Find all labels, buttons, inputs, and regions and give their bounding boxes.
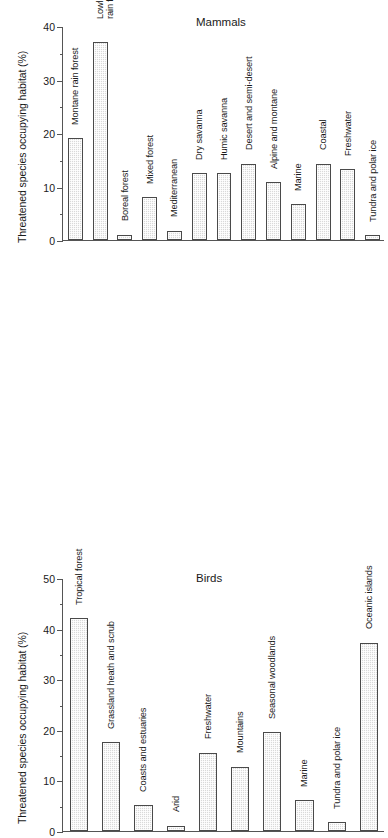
bar (134, 805, 152, 831)
bar-slot: Coastal (316, 27, 331, 240)
y-tick-label: 50 (43, 573, 55, 585)
bar-category-label: Oceanic islands (365, 566, 375, 629)
y-tick-label: 20 (43, 128, 55, 140)
y-tick-label: 40 (43, 21, 55, 33)
bar-slot: Alpine and montane (266, 27, 281, 240)
bar-slot: Lowland rain forest (93, 27, 108, 240)
bar-slot: Marine (291, 27, 306, 240)
bar-category-label: Seasonal woodlands (268, 636, 278, 719)
y-tick-major (57, 241, 63, 242)
bar-category-label: Mediterranean (170, 159, 180, 217)
chart-panel-mammals: Threatened species occupying habitat (%)… (0, 0, 388, 268)
bar (199, 753, 217, 831)
bar (291, 204, 306, 240)
bar-category-label: Mixed forest (146, 135, 156, 184)
bar-category-label: Humic savanna (220, 97, 230, 159)
bar-category-label: Dry savanna (195, 109, 205, 160)
bar-slot: Mountains (231, 579, 249, 831)
bar (360, 643, 378, 831)
bar (217, 173, 232, 240)
bar-category-label: Lowland rain forest (96, 0, 115, 19)
y-axis-title-birds: Threatened species occupying habitat (%) (16, 632, 28, 824)
y-tick-label: 30 (43, 75, 55, 87)
y-tick-label: 30 (43, 674, 55, 686)
bar (340, 169, 355, 240)
bar-slot: Coasts and estuaries (134, 579, 152, 831)
y-tick-label: 20 (43, 725, 55, 737)
y-tick-label: 10 (43, 775, 55, 787)
bar-category-label: Mountains (236, 712, 246, 754)
bar-slot: Mediterranean (167, 27, 182, 240)
bar-slot: Boreal forest (117, 27, 132, 240)
bar (241, 164, 256, 240)
bar-slot: Desert and semi-desert (241, 27, 256, 240)
chart-panel-birds: Threatened species occupying habitat (%)… (0, 268, 388, 582)
bar-category-label: Montane rain forest (71, 48, 81, 125)
y-tick-label: 0 (49, 826, 55, 838)
bar-category-label: Coastal (319, 120, 329, 150)
bar-slot: Dry savanna (192, 27, 207, 240)
bar-series-mammals: Montane rain forestLowland rain forestBo… (63, 27, 384, 240)
bar-slot: Humic savanna (217, 27, 232, 240)
y-axis-title-mammals: Threatened species occupying habitat (%) (16, 51, 28, 243)
bar (68, 138, 83, 240)
bar-category-label: Boreal forest (121, 170, 131, 221)
plot-area-mammals: 010203040 Montane rain forestLowland rai… (62, 27, 384, 241)
bar-category-label: Alpine and montane (270, 89, 280, 169)
bar-slot: Freshwater (340, 27, 355, 240)
bar (295, 800, 313, 831)
bar-slot: Marine (295, 579, 313, 831)
bar (266, 182, 281, 240)
bar (167, 826, 185, 831)
bar (93, 42, 108, 240)
bar-category-label: Tropical forest (75, 549, 85, 605)
bar (117, 235, 132, 240)
bar (316, 164, 331, 240)
bar (263, 732, 281, 831)
bar-slot: Tundra and polar ice (365, 27, 380, 240)
bar-slot: Tundra and polar ice (328, 579, 346, 831)
bar-slot: Arid (167, 579, 185, 831)
bar-category-label: Tundra and polar ice (369, 140, 379, 222)
bar-slot: Mixed forest (142, 27, 157, 240)
bar-slot: Tropical forest (70, 579, 88, 831)
bar-category-label: Freshwater (344, 111, 354, 156)
bar (192, 173, 207, 240)
y-tick-label: 40 (43, 624, 55, 636)
bar-category-label: Coasts and estuaries (139, 707, 149, 791)
bar-slot: Grassland heath and scrub (102, 579, 120, 831)
bar (167, 231, 182, 240)
bar-slot: Freshwater (199, 579, 217, 831)
bar (365, 235, 380, 240)
bar-category-label: Tundra and polar ice (333, 727, 343, 809)
y-tick-label: 0 (49, 235, 55, 247)
bar (70, 618, 88, 831)
bar (328, 822, 346, 831)
y-tick-label: 10 (43, 182, 55, 194)
bar-category-label: Arid (172, 796, 182, 812)
bar-category-label: Grassland heath and scrub (107, 621, 117, 729)
bar-category-label: Freshwater (204, 694, 214, 739)
bar-slot: Oceanic islands (360, 579, 378, 831)
bar-series-birds: Tropical forestGrassland heath and scrub… (63, 579, 384, 831)
bar (142, 197, 157, 240)
bar-category-label: Desert and semi-desert (245, 57, 255, 150)
bar-category-label: Marine (300, 759, 310, 787)
y-tick-major (57, 832, 63, 833)
bar-category-label: Marine (294, 163, 304, 191)
bar (231, 767, 249, 831)
bar (102, 742, 120, 831)
plot-area-birds: 01020304050 Tropical forestGrassland hea… (62, 579, 384, 832)
bar-slot: Seasonal woodlands (263, 579, 281, 831)
bar-slot: Montane rain forest (68, 27, 83, 240)
